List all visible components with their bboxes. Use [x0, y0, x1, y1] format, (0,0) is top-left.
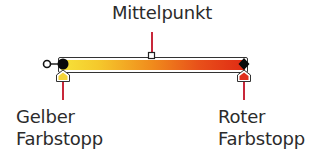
open-circle-icon[interactable]: [44, 61, 51, 68]
yellow-stop-label-line1: Gelber: [16, 106, 103, 128]
red-stop-label: Roter Farbstopp: [218, 106, 305, 150]
left-stop-leader-line: [62, 82, 64, 100]
right-stop-leader-line: [243, 82, 245, 100]
red-stop-label-line2: Farbstopp: [218, 128, 305, 150]
red-color-stop-icon[interactable]: [238, 70, 251, 82]
yellow-stop-label-line2: Farbstopp: [16, 128, 103, 150]
left-stop-handle-icon[interactable]: [58, 59, 69, 70]
midpoint-handle-icon[interactable]: [149, 53, 155, 59]
yellow-stop-label: Gelber Farbstopp: [16, 106, 103, 150]
right-stop-diamond-icon[interactable]: [239, 58, 250, 70]
yellow-color-stop-icon[interactable]: [57, 70, 70, 82]
red-stop-label-line1: Roter: [218, 106, 305, 128]
